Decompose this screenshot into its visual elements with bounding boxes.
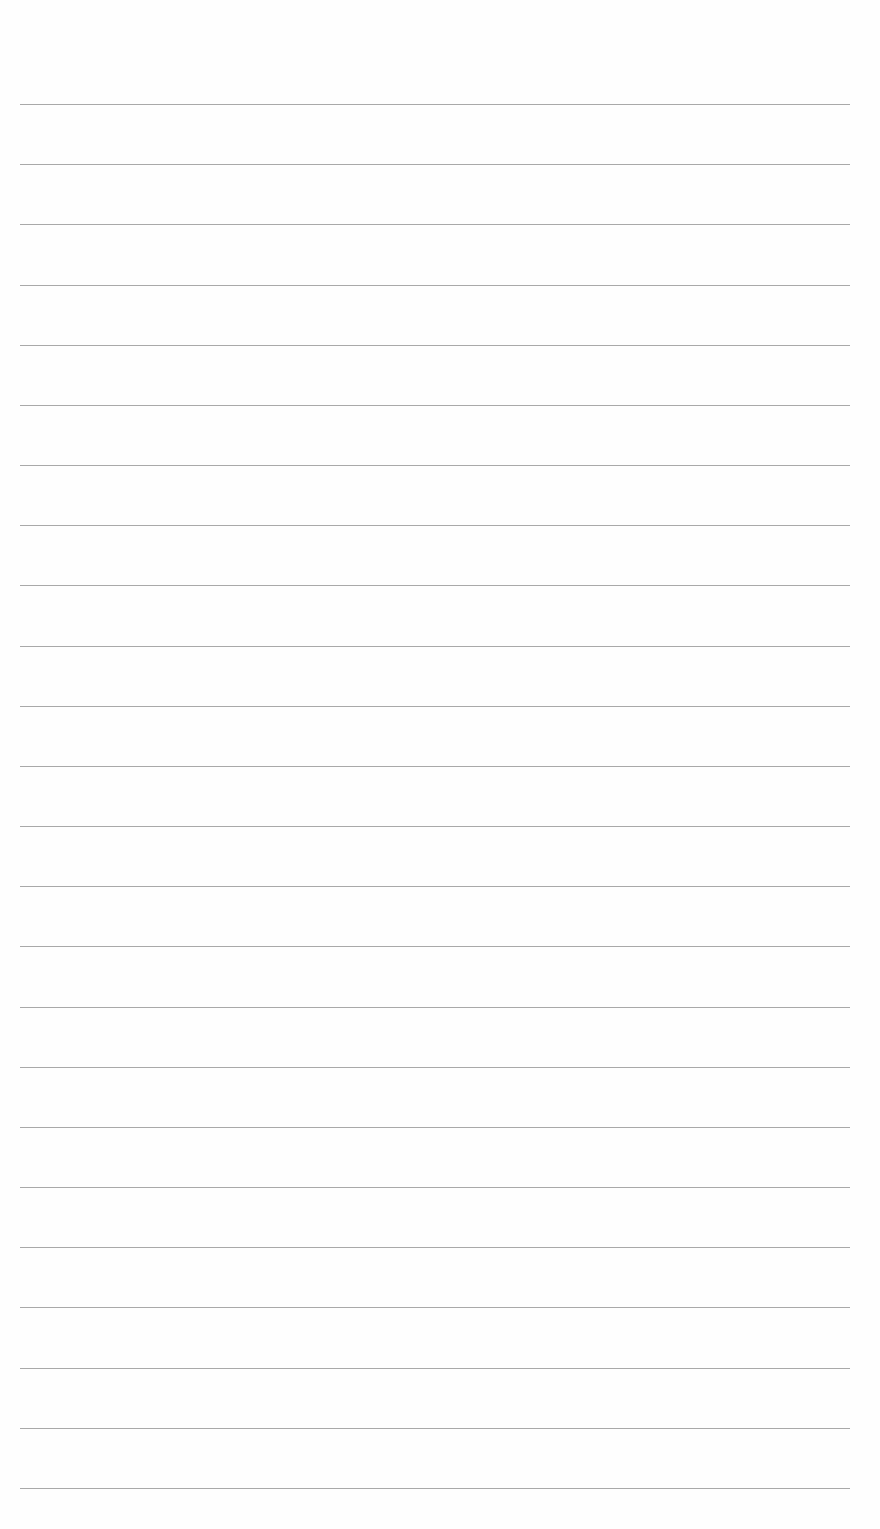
lined-paper-page (0, 0, 880, 1529)
ruled-line (20, 164, 850, 165)
ruled-line (20, 1007, 850, 1008)
ruled-line (20, 946, 850, 947)
ruled-line (20, 405, 850, 406)
ruled-line (20, 1187, 850, 1188)
ruled-line (20, 285, 850, 286)
ruled-line (20, 1127, 850, 1128)
ruled-line (20, 525, 850, 526)
ruled-line (20, 1368, 850, 1369)
ruled-line (20, 1428, 850, 1429)
ruled-line (20, 886, 850, 887)
ruled-line (20, 826, 850, 827)
ruled-line (20, 224, 850, 225)
ruled-line (20, 1307, 850, 1308)
ruled-line (20, 646, 850, 647)
ruled-line (20, 585, 850, 586)
ruled-line (20, 1488, 850, 1489)
ruled-line (20, 766, 850, 767)
ruled-line (20, 1067, 850, 1068)
ruled-line (20, 1247, 850, 1248)
ruled-line (20, 345, 850, 346)
ruled-line (20, 706, 850, 707)
ruled-line (20, 104, 850, 105)
ruled-line (20, 465, 850, 466)
